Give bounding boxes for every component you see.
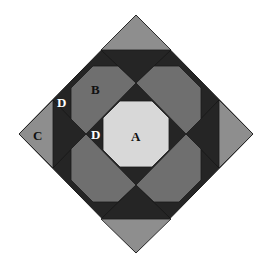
quilt-block-diagram: A B C D D xyxy=(0,0,262,269)
corner-triangle-c-top xyxy=(101,15,171,50)
label-c: C xyxy=(33,128,42,143)
corner-triangle-c-right xyxy=(219,100,253,168)
label-a: A xyxy=(131,129,141,144)
corner-triangle-c-bottom xyxy=(101,219,171,253)
label-b: B xyxy=(91,82,100,97)
label-d-center: D xyxy=(91,127,100,142)
label-d-upper: D xyxy=(57,95,66,110)
